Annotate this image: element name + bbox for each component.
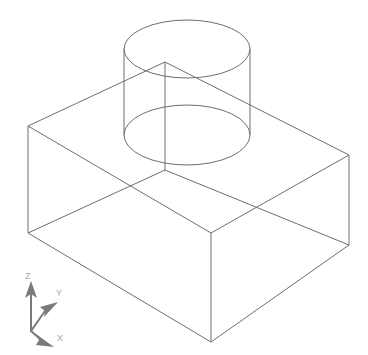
- x-axis-label: X: [57, 333, 63, 343]
- box-bottom-face-edges: [28, 170, 349, 342]
- drawing-canvas: Z Y X: [0, 0, 368, 355]
- y-axis-line: [31, 311, 45, 331]
- cylinder-top-ellipse: [124, 20, 250, 78]
- rectangular-block: [28, 62, 349, 342]
- coordinate-axis-tripod: Z Y X: [25, 271, 63, 347]
- y-axis-label: Y: [56, 288, 62, 298]
- z-axis-label: Z: [25, 271, 31, 281]
- cylindrical-boss: [124, 20, 250, 165]
- cylinder-bottom-ellipse: [124, 105, 250, 165]
- isometric-wireframe-scene: Z Y X: [0, 0, 368, 355]
- y-axis: [31, 302, 58, 331]
- x-axis: [31, 331, 54, 347]
- x-axis-arrowhead: [36, 334, 54, 347]
- box-top-face-edges: [28, 62, 349, 233]
